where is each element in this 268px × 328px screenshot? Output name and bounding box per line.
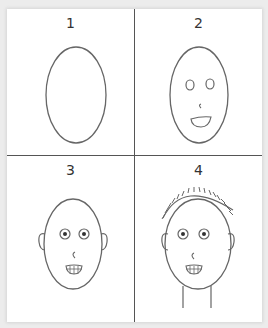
- step-panel-1: 1: [7, 9, 134, 165]
- finished-face-icon: [135, 156, 262, 322]
- simple-face-icon: [135, 9, 262, 155]
- step-panel-4: 4: [135, 156, 262, 312]
- drawing-card: 1 2 3 4: [7, 9, 262, 322]
- step-panel-2: 2: [135, 9, 262, 165]
- step-panel-3: 3: [7, 156, 134, 312]
- egg-outline-icon: [7, 9, 134, 155]
- detailed-face-icon: [7, 156, 134, 322]
